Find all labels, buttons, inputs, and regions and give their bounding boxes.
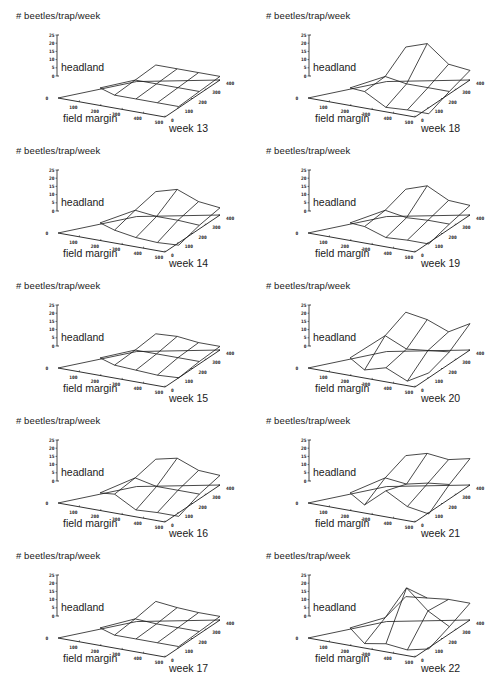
surface-line [365,491,386,505]
x-tick-label: 100 [319,240,328,245]
surface-line [199,202,220,208]
z-tick-label: 5 [304,65,307,70]
depth-tick-label: 100 [185,244,194,249]
z-tick-label: 5 [304,470,307,475]
x-tick-label: 400 [133,386,142,391]
surface-plot-panel-week-15: # beetles/trap/week 05101520250100200300… [0,270,250,406]
surface-line [350,76,385,87]
surface-plot-panel-week-19: # beetles/trap/week 05101520250100200300… [250,135,499,271]
surface-line [407,218,428,221]
depth-tick-label: 200 [449,505,458,510]
depth-tick-label: 100 [185,649,194,654]
x-tick-label: 400 [383,116,392,121]
surface-line [156,458,177,459]
depth-tick-label: 300 [462,495,471,500]
depth-tick-label: 300 [462,360,471,365]
surface-line [386,484,407,491]
surface-line [429,352,450,373]
x-axis-label: field margin [315,112,369,124]
surface-line [407,611,428,650]
depth-tick-label: 100 [435,514,444,519]
x-axis-label: field margin [63,517,117,529]
surface-line [115,365,136,370]
z-tick-label: 0 [52,344,55,349]
z-tick-label: 10 [301,192,307,197]
surface-line [178,202,199,221]
surface-line [156,334,177,337]
surface-line [449,459,470,485]
depth-tick-label: 400 [226,351,235,356]
x-tick-label: 100 [69,375,78,380]
depth-tick-label: 100 [435,379,444,384]
z-tick-label: 5 [52,470,55,475]
surface-line [177,608,198,613]
surface-line [157,216,178,220]
x-tick-label: 0 [296,366,299,371]
surface-line [427,44,448,65]
surface-line [136,354,157,370]
surface-line [386,368,407,381]
surface-line [157,243,178,246]
depth-tick-label: 200 [199,370,208,375]
surface-line [156,189,177,191]
headland-label: headland [313,196,356,208]
depth-tick-label: 400 [476,351,485,356]
surface-plot-panel-week-20: # beetles/trap/week 05101520250100200300… [250,270,499,406]
surface-line [407,588,428,611]
surface-line [115,478,136,494]
surface-line [365,92,386,108]
depth-tick-label: 200 [199,505,208,510]
surface-line [407,483,428,506]
surface-line [427,320,448,332]
surface-line [428,483,449,484]
headland-edge-line [58,622,137,638]
surface-line [385,478,406,484]
depth-tick-label: 300 [212,630,221,635]
z-tick-label: 5 [304,200,307,205]
z-tick-label: 25 [301,33,307,38]
z-tick-label: 10 [49,597,55,602]
surface-line [115,230,136,237]
surface-line [136,510,157,513]
z-tick-label: 20 [301,581,307,586]
surface-line [157,69,178,84]
x-tick-label: 100 [69,105,78,110]
surface-line [156,65,177,69]
surface-line [136,84,157,99]
surface-line [406,44,427,47]
z-tick-label: 0 [304,209,307,214]
surface-line [428,460,449,483]
x-axis-label: field margin [63,112,117,124]
surface-line [199,613,220,617]
x-tick-label: 0 [46,501,49,506]
z-tick-label: 20 [49,41,55,46]
z-tick-label: 10 [301,597,307,602]
depth-tick-label: 200 [449,235,458,240]
surface-line [385,47,406,76]
headland-edge-line [308,352,387,368]
surface-line [157,608,178,624]
x-tick-label: 500 [155,390,164,395]
surface-line [386,588,407,644]
headland-label: headland [313,331,356,343]
surface-line [406,186,427,189]
surface-line [407,350,428,381]
x-axis-label: field margin [315,247,369,259]
z-tick-label: 0 [52,479,55,484]
x-tick-label: 0 [46,366,49,371]
depth-tick-label: 400 [476,216,485,221]
surface-plot-panel-week-14: # beetles/trap/week 05101520250100200300… [0,135,250,271]
z-tick-label: 5 [304,335,307,340]
z-tick-label: 15 [301,49,307,54]
headland-edge-line [308,487,387,503]
x-tick-label: 400 [133,116,142,121]
z-tick-label: 15 [301,319,307,324]
x-tick-label: 500 [155,255,164,260]
z-tick-label: 10 [49,192,55,197]
week-label: week 22 [421,662,460,674]
surface-line [157,624,178,628]
headland-label: headland [61,466,104,478]
depth-tick-label: 300 [212,90,221,95]
surface-line [135,80,156,84]
surface-plot-svg: 051015202501002003004005000100200300400 [250,0,499,136]
